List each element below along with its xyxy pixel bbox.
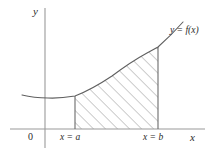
upper-bound-label: x = b [143,133,163,143]
figure-canvas: y x 0 x = a x = b y = f(x) [0,0,214,154]
shaded-area-region [70,40,165,135]
lower-bound-label: x = a [60,133,80,143]
hatch-fill [70,40,165,135]
function-label: y = f(x) [170,26,199,36]
origin-label: 0 [28,132,33,142]
y-axis-label: y [33,6,38,17]
x-axis-label: x [190,132,195,143]
